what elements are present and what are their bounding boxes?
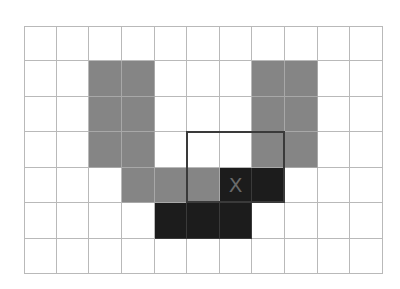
grid-cell [285,132,318,167]
grid-cell [220,132,253,167]
grid-cell [285,61,318,96]
grid-cell [350,132,383,167]
grid-cell [252,97,285,132]
grid-cell [155,203,188,238]
grid-cell [122,168,155,203]
grid-cell [318,26,351,61]
grid-cell [220,61,253,96]
grid-cell [318,97,351,132]
grid-cell [155,132,188,167]
grid-cell [350,26,383,61]
grid-cell [318,61,351,96]
grid-cell [187,26,220,61]
grid-cell [220,26,253,61]
grid-cell [252,61,285,96]
grid-cell [89,61,122,96]
grid-cell [187,239,220,274]
grid-cell [285,26,318,61]
grid-cell [285,239,318,274]
grid-cell [89,26,122,61]
grid-cell [122,26,155,61]
grid-cell [220,203,253,238]
grid-cell [285,97,318,132]
grid-cell [252,132,285,167]
grid-cell [89,168,122,203]
grid-cell [285,203,318,238]
grid-cell [89,203,122,238]
grid-cell [57,97,90,132]
grid-cell [187,97,220,132]
grid-cell [122,239,155,274]
grid-cell [155,61,188,96]
grid-cell [89,97,122,132]
grid-cell [122,203,155,238]
grid-cell: X [220,168,253,203]
grid-cell [350,97,383,132]
grid-cell [350,203,383,238]
grid-cell [252,168,285,203]
grid-cell [318,168,351,203]
grid-cell [220,239,253,274]
grid-cell [252,239,285,274]
grid-cell [318,203,351,238]
grid-cell [24,132,57,167]
pixel-grid: X [24,26,383,274]
grid-cell [24,26,57,61]
grid-cell [155,26,188,61]
grid-cell [57,203,90,238]
grid-cell [57,168,90,203]
grid-cell [285,168,318,203]
grid-cell [350,239,383,274]
grid-cell [24,61,57,96]
grid-cell [24,203,57,238]
grid-cell [24,97,57,132]
grid-cell [252,203,285,238]
grid-cell [350,61,383,96]
grid-cell [187,61,220,96]
grid-cell [89,239,122,274]
grid-cell [155,168,188,203]
grid-cell [57,26,90,61]
grid-cell [187,168,220,203]
grid-cell [122,132,155,167]
grid-cell [318,239,351,274]
grid-cell [187,203,220,238]
grid-cell [350,168,383,203]
grid-cell [57,132,90,167]
grid-cell [155,97,188,132]
grid-cell [122,61,155,96]
grid-cell [24,168,57,203]
grid-cell [220,97,253,132]
grid-cell [57,61,90,96]
grid-cell [155,239,188,274]
x-mark-icon: X [229,175,243,195]
grid-cell [252,26,285,61]
grid-cell [318,132,351,167]
grid-cell [24,239,57,274]
grid-cell [187,132,220,167]
grid-cell [57,239,90,274]
grid-cell [122,97,155,132]
grid-cell [89,132,122,167]
